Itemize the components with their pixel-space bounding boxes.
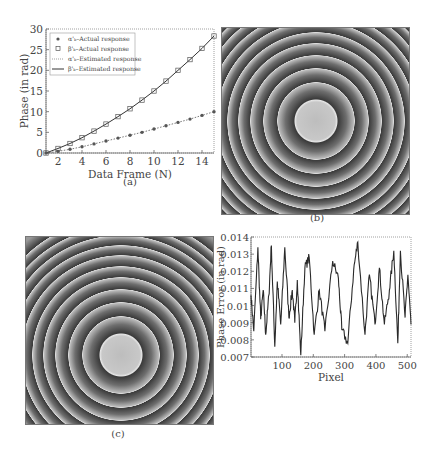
y-tick-label: 5: [36, 126, 43, 138]
y-tick-label: 0.007: [220, 352, 249, 363]
x-tick-label: 200: [304, 360, 323, 371]
y-tick-label: 0.014: [220, 232, 249, 243]
alpha-actual-marker: [68, 148, 71, 151]
phase-line-chart: 0510152025302468101214Data Frame (N)Phas…: [0, 0, 220, 220]
panel-b-fringe-map: (b): [215, 0, 433, 230]
x-tick-label: 12: [171, 155, 184, 167]
alpha-actual-marker: [104, 139, 107, 142]
y-axis-label: Phase Error (in rad): [215, 246, 226, 348]
caption-c: (c): [103, 428, 133, 439]
x-tick-label: 14: [195, 155, 209, 167]
y-tick-label: 0.01: [227, 301, 249, 312]
alpha-actual-marker: [44, 151, 47, 154]
panel-d-phase-error: 0.0070.0080.0090.010.0110.0120.0130.0141…: [215, 225, 433, 385]
x-tick-label: 10: [147, 155, 160, 167]
x-tick-label: 300: [335, 360, 354, 371]
legend: α'ₖ–Actual responseβ'ₖ–Actual responseα'…: [50, 33, 142, 75]
alpha-estimated-line: [46, 112, 214, 153]
alpha-actual-marker: [116, 136, 119, 139]
y-axis-label: Phase (in rad): [18, 54, 30, 129]
phase-error-line-chart: 0.0070.0080.0090.010.0110.0120.0130.0141…: [215, 225, 433, 385]
phase-error-trace: [251, 242, 411, 355]
x-axis-label: Pixel: [318, 371, 345, 383]
x-tick-label: 100: [272, 360, 291, 371]
caption-a: (a): [115, 176, 145, 187]
x-tick-label: 2: [55, 155, 62, 167]
y-tick-label: 0: [36, 147, 43, 159]
alpha-actual-marker: [164, 124, 167, 127]
alpha-actual-marker: [56, 150, 59, 153]
legend-entry: α'ₖ–Actual response: [68, 35, 130, 43]
x-tick-label: 8: [127, 155, 134, 167]
legend-entry: α'ₖ–Estimated response: [68, 55, 142, 63]
x-tick-label: 400: [366, 360, 385, 371]
y-tick-label: 20: [30, 64, 43, 76]
panel-c-fringe-map: (c): [0, 225, 230, 458]
y-tick-label: 25: [30, 44, 43, 56]
alpha-actual-marker: [128, 134, 131, 137]
alpha-actual-marker: [176, 121, 179, 124]
legend-entry: β'ₖ–Estimated response: [68, 65, 141, 73]
alpha-actual-marker: [188, 117, 191, 120]
alpha-actual-marker: [80, 145, 83, 148]
x-tick-label: 500: [398, 360, 417, 371]
caption-b: (b): [302, 212, 332, 223]
panel-a-phase-vs-frame: 0510152025302468101214Data Frame (N)Phas…: [0, 0, 220, 220]
caption-d: (d): [324, 384, 338, 385]
legend-entry: β'ₖ–Actual response: [68, 45, 129, 53]
fringe-pattern-image: [25, 236, 214, 425]
y-tick-label: 30: [30, 23, 43, 35]
y-tick-label: 10: [30, 106, 43, 118]
alpha-actual-marker: [140, 131, 143, 134]
x-tick-label: 6: [103, 155, 110, 167]
alpha-actual-marker: [152, 127, 155, 130]
y-tick-label: 15: [30, 85, 43, 97]
alpha-actual-marker: [92, 142, 95, 145]
alpha-actual-marker: [200, 114, 203, 117]
x-tick-label: 4: [79, 155, 86, 167]
fringe-pattern-image: [221, 27, 410, 215]
